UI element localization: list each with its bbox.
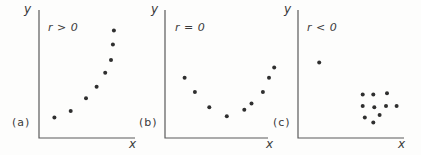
data-point	[363, 116, 367, 120]
data-point	[395, 104, 399, 108]
data-point	[361, 93, 365, 97]
annotation-r-positive: r > 0	[48, 22, 78, 33]
data-point	[52, 116, 56, 120]
data-point	[371, 121, 375, 125]
x-axis-label-a: x	[129, 139, 136, 150]
data-point	[109, 58, 113, 62]
data-point	[361, 104, 365, 108]
data-point	[112, 29, 116, 33]
data-point	[95, 85, 99, 89]
data-point	[372, 105, 376, 109]
y-axis-label-a: y	[24, 4, 31, 15]
data-point	[267, 76, 271, 80]
data-point	[384, 104, 388, 108]
data-point	[242, 108, 246, 112]
y-axis-label-c: y	[284, 4, 291, 15]
correlation-scatter-figure: y x r > 0 (a) y x r = 0 (b) y x r < 0 (c…	[0, 0, 421, 155]
data-point	[84, 96, 88, 100]
data-point	[207, 105, 211, 109]
panel-letter-c: (c)	[273, 117, 291, 128]
data-point	[193, 90, 197, 94]
data-point	[272, 66, 276, 70]
data-point	[250, 101, 254, 105]
data-point	[103, 71, 107, 75]
data-point	[69, 109, 73, 113]
data-point	[111, 43, 115, 47]
data-point	[183, 76, 187, 80]
data-point	[378, 113, 382, 117]
annotation-r-negative: r < 0	[307, 22, 337, 33]
x-axis-label-c: x	[398, 139, 405, 150]
data-point	[317, 61, 321, 65]
data-point	[225, 114, 229, 118]
data-point	[261, 90, 265, 94]
data-point	[385, 91, 389, 95]
data-point	[371, 93, 375, 97]
panel-letter-b: (b)	[139, 117, 158, 128]
y-axis-label-b: y	[151, 4, 158, 15]
annotation-r-zero: r = 0	[175, 22, 205, 33]
panel-letter-a: (a)	[12, 117, 30, 128]
x-axis-label-b: x	[266, 139, 273, 150]
